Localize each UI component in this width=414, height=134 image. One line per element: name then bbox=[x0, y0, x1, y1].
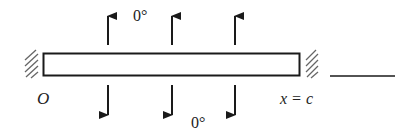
end-label: x = c bbox=[279, 90, 313, 107]
top-boundary-label: 0° bbox=[133, 7, 147, 24]
bottom-boundary-label: 0° bbox=[191, 114, 205, 131]
left-wall-hatch-icon bbox=[25, 50, 38, 78]
right-wall-hatch-icon bbox=[306, 50, 318, 78]
origin-label: O bbox=[37, 89, 49, 108]
rod-diagram: 0° 0° O x = c bbox=[0, 0, 414, 134]
heat-arrows-down bbox=[108, 85, 235, 115]
rod-bar bbox=[44, 54, 300, 76]
heat-arrows-up bbox=[108, 16, 235, 45]
